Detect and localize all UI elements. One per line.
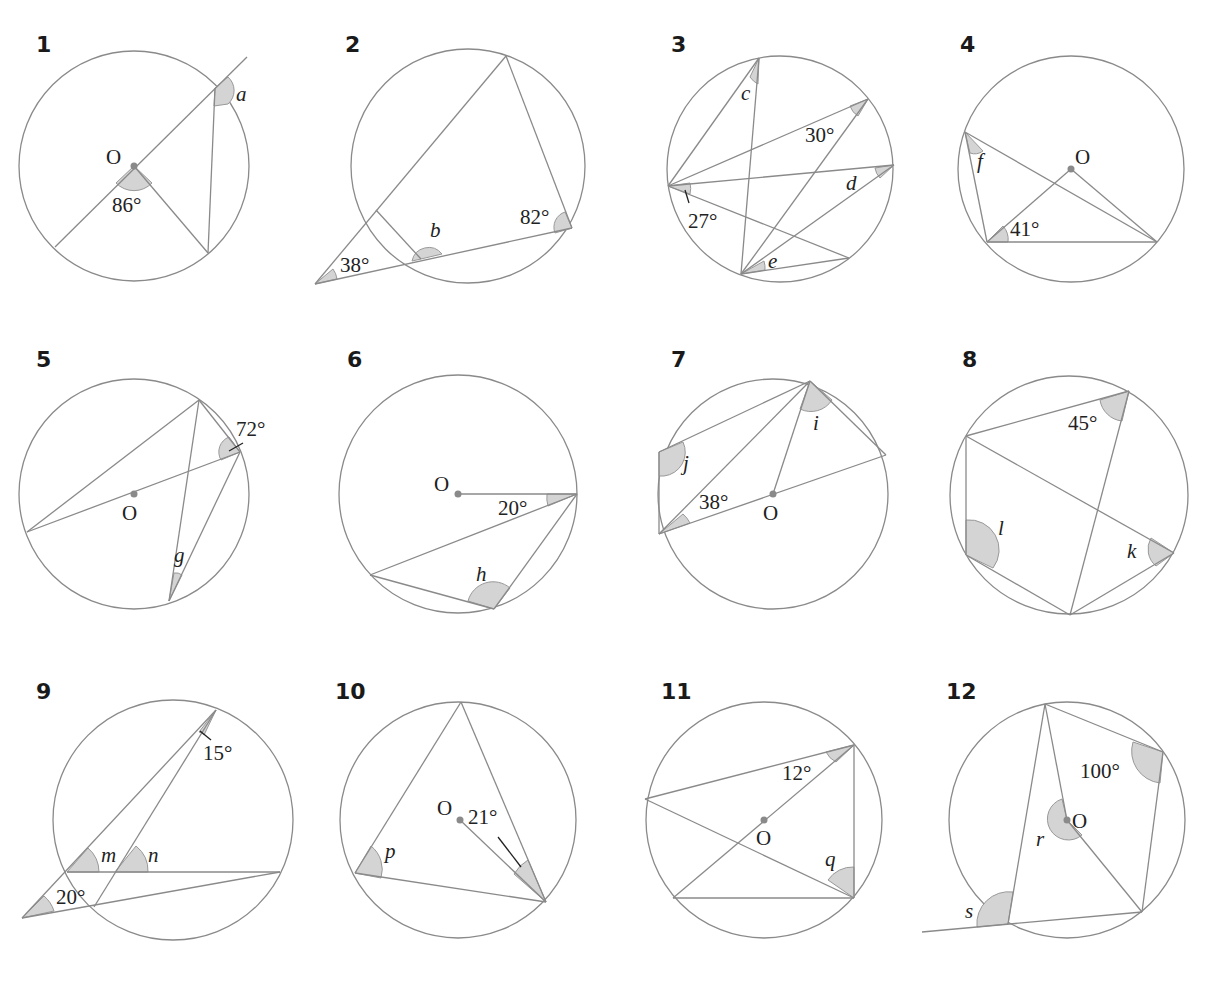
unknown-angle: s bbox=[965, 899, 973, 923]
angle-marker bbox=[67, 848, 99, 872]
unknown-angle: l bbox=[998, 516, 1004, 540]
chord bbox=[376, 210, 421, 259]
angle-marker bbox=[826, 745, 854, 762]
chord bbox=[1070, 553, 1174, 615]
angle-marker bbox=[115, 846, 148, 872]
given-angle: 27° bbox=[688, 209, 717, 233]
chord bbox=[645, 799, 854, 898]
problem-6: 6 O 20° h bbox=[339, 347, 577, 613]
problem-number: 11 bbox=[661, 679, 692, 704]
given-angle: 82° bbox=[520, 205, 549, 229]
chord bbox=[370, 494, 577, 575]
problem-4: 4 O f 41° bbox=[958, 32, 1184, 282]
unknown-angle: r bbox=[1036, 827, 1045, 851]
unknown-angle: n bbox=[148, 843, 159, 867]
angle-marker bbox=[659, 514, 690, 534]
chord bbox=[1045, 704, 1163, 752]
centre-point bbox=[131, 163, 138, 170]
problem-3: 3 c 30° d 27° e bbox=[667, 32, 894, 282]
problem-number: 3 bbox=[671, 32, 686, 57]
angle-marker bbox=[966, 520, 999, 568]
problem-number: 5 bbox=[36, 347, 51, 372]
problem-12: 12 O 100° r s bbox=[922, 679, 1185, 938]
unknown-angle: q bbox=[825, 847, 836, 871]
given-angle: 20° bbox=[498, 496, 527, 520]
line bbox=[922, 912, 1142, 932]
unknown-angle: f bbox=[977, 149, 986, 173]
unknown-angle: p bbox=[383, 839, 396, 863]
given-angle: 20° bbox=[56, 885, 85, 909]
circle bbox=[53, 700, 293, 940]
chord bbox=[965, 132, 1157, 242]
pointer-line bbox=[498, 837, 521, 867]
unknown-angle: a bbox=[236, 82, 247, 106]
chord bbox=[199, 400, 240, 452]
chord bbox=[27, 400, 199, 532]
radius bbox=[773, 381, 810, 494]
unknown-angle: i bbox=[813, 411, 819, 435]
chord bbox=[208, 88, 215, 253]
angle-marker bbox=[828, 867, 854, 898]
line bbox=[22, 710, 216, 918]
given-angle: 12° bbox=[782, 761, 811, 785]
centre-label: O bbox=[1075, 145, 1090, 169]
centre-label: O bbox=[122, 501, 137, 525]
centre-label: O bbox=[763, 501, 778, 525]
problem-number: 10 bbox=[335, 679, 366, 704]
angle-marker bbox=[514, 860, 546, 902]
angle-marker bbox=[659, 442, 685, 476]
unknown-angle: b bbox=[430, 218, 441, 242]
worksheet: 1 O 86° a 2 38° b 82° 3 bbox=[0, 0, 1213, 986]
given-angle: 15° bbox=[203, 741, 232, 765]
centre-point bbox=[1064, 817, 1071, 824]
radius bbox=[460, 820, 546, 902]
problem-2: 2 38° b 82° bbox=[315, 32, 585, 284]
line bbox=[55, 57, 247, 247]
given-angle: 30° bbox=[805, 123, 834, 147]
angle-marker bbox=[214, 77, 234, 106]
problem-number: 2 bbox=[345, 32, 360, 57]
given-angle: 45° bbox=[1068, 411, 1097, 435]
centre-point bbox=[457, 817, 464, 824]
circle bbox=[667, 56, 893, 282]
unknown-angle: d bbox=[846, 171, 857, 195]
centre-label: O bbox=[756, 826, 771, 850]
chord bbox=[668, 99, 868, 186]
given-angle: 100° bbox=[1080, 759, 1120, 783]
centre-point bbox=[131, 491, 138, 498]
chord bbox=[668, 165, 894, 186]
centre-label: O bbox=[434, 472, 449, 496]
given-angle: 21° bbox=[468, 805, 497, 829]
unknown-angle: h bbox=[476, 562, 487, 586]
problem-7: 7 O 38° i j bbox=[658, 347, 888, 609]
problem-number: 12 bbox=[946, 679, 977, 704]
given-angle: 72° bbox=[236, 417, 265, 441]
given-angle: 38° bbox=[340, 253, 369, 277]
problem-5: 5 O 72° g bbox=[19, 347, 265, 609]
problem-number: 9 bbox=[36, 679, 51, 704]
problem-1: 1 O 86° a bbox=[19, 32, 249, 281]
line bbox=[315, 56, 506, 284]
given-angle: 86° bbox=[112, 193, 141, 217]
problem-9: 9 15° m n 20° bbox=[22, 679, 293, 940]
chord bbox=[966, 391, 1129, 436]
problem-number: 6 bbox=[347, 347, 362, 372]
angle-marker bbox=[1132, 742, 1163, 783]
radius bbox=[134, 166, 208, 253]
radius bbox=[1071, 169, 1157, 242]
radius bbox=[1067, 820, 1142, 912]
centre-point bbox=[770, 491, 777, 498]
unknown-angle: k bbox=[1127, 539, 1137, 563]
chord bbox=[355, 702, 461, 873]
problem-number: 7 bbox=[671, 347, 686, 372]
problem-8: 8 45° l k bbox=[950, 347, 1188, 615]
chord bbox=[741, 165, 894, 274]
unknown-angle: m bbox=[101, 843, 116, 867]
centre-label: O bbox=[437, 796, 452, 820]
centre-point bbox=[455, 491, 462, 498]
centre-label: O bbox=[1072, 809, 1087, 833]
unknown-angle: g bbox=[174, 543, 185, 567]
chord bbox=[1008, 704, 1045, 924]
angle-marker bbox=[1148, 538, 1174, 566]
chord bbox=[94, 710, 216, 907]
